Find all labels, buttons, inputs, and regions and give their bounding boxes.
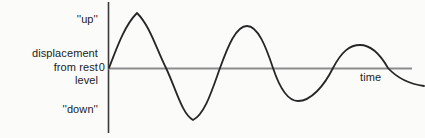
axis-label-down: ''down'' [63,103,99,116]
axis-label-displacement-line-3: level [32,74,98,88]
displacement-time-figure: ''up'' displacement from rest level 0 ''… [0,0,425,138]
axis-label-time: time [360,71,381,84]
axis-label-displacement: displacement from rest level [32,47,98,88]
axis-label-up: ''up'' [77,13,98,26]
axis-tick-label-zero: 0 [99,61,105,74]
axis-label-displacement-line-1: displacement [32,47,98,61]
axis-label-displacement-line-2: from rest [32,61,98,75]
